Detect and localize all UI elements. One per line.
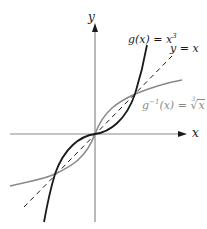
x-axis-arrow-icon: [178, 131, 187, 137]
y-axis-arrow-icon: [92, 23, 98, 32]
inverse-function-name: g: [142, 99, 149, 112]
identity-label: y = x: [170, 43, 199, 54]
cube-exponent: 3: [172, 32, 176, 40]
inverse-function-arg: (x) =: [159, 99, 190, 112]
inverse-superscript: −1: [149, 98, 159, 106]
y-axis-label: y: [88, 11, 95, 23]
y-axis: [92, 23, 98, 222]
identity-line: [24, 56, 172, 207]
inverse-function-label: g−1(x) = 3√x: [142, 99, 205, 111]
x-axis-label: x: [192, 127, 199, 139]
root-index: 3: [191, 96, 195, 102]
cube-root-symbol: 3√x: [190, 99, 204, 111]
cube-function-text: g(x) = x: [128, 33, 172, 46]
radicand: x: [197, 99, 204, 111]
